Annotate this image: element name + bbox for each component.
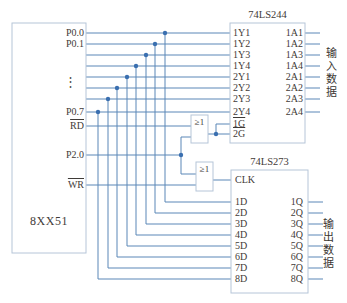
pin-ellipsis: ⋮ [64, 75, 77, 89]
or-gate-2-label: ≥1 [196, 164, 213, 174]
output-data-label: 输出数据 [321, 218, 334, 270]
pin-label-p07: P0.7 [66, 106, 84, 118]
latch273-title: 74LS273 [231, 156, 308, 168]
pin-label-2a3: 2A3 [286, 93, 303, 105]
pin-label-p01: P0.1 [66, 38, 84, 50]
pin-label-clk: CLK [235, 174, 255, 186]
mcu-title: 8XX51 [12, 215, 86, 227]
buffer244-title: 74LS244 [230, 9, 305, 21]
pin-label-8q: 8Q [291, 273, 303, 285]
pin-label-2y3: 2Y3 [233, 93, 250, 105]
pin-label-2y4: 2Y4 [233, 106, 250, 118]
pin-label-2a4: 2A4 [286, 106, 303, 118]
input-data-label: 输入数据 [324, 47, 337, 99]
pin-label-2g: 2G [233, 128, 245, 140]
pin-label-rd: RD [70, 120, 84, 132]
pin-label-p20: P2.0 [66, 149, 84, 161]
pin-label-8d: 8D [235, 273, 247, 285]
circuit-diagram: P0.0 P0.1 ⋮ P0.7 RD P2.0 WR 8XX51 ≥1 ≥1 … [0, 0, 347, 303]
junction-dots [96, 31, 218, 157]
or-gate-1-label: ≥1 [191, 117, 208, 127]
pin-label-wr: WR [68, 179, 84, 191]
